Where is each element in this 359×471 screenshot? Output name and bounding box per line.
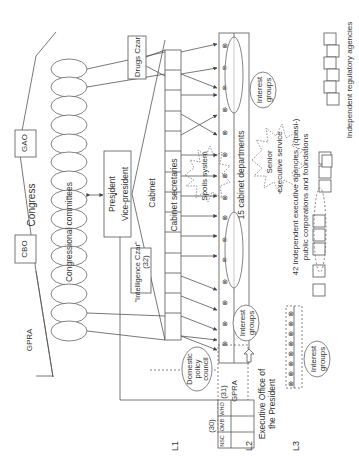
cabinet-secretaries-label: Cabinet secretaries xyxy=(169,158,179,231)
interest-groups-2: Interest groups xyxy=(233,305,259,341)
svg-text:⊗: ⊗ xyxy=(288,360,294,367)
congress-label: Congress xyxy=(26,184,37,227)
interest-groups-1: Interest groups xyxy=(250,72,276,108)
svg-text:"Intelligence Czar": "Intelligence Czar" xyxy=(133,241,142,303)
level-l1: L1 xyxy=(170,441,180,451)
svg-text:NSC: NSC xyxy=(219,435,225,447)
independent-executive-agencies-boxes xyxy=(313,152,331,296)
intelligence-czar-box: "Intelligence Czar" (32) xyxy=(131,241,151,303)
interest-groups-3: Interest groups xyxy=(304,341,330,377)
svg-text:CBO: CBO xyxy=(20,240,29,257)
eop-gpra: GPRA xyxy=(230,380,239,401)
svg-text:⊗: ⊗ xyxy=(288,320,294,327)
svg-text:WHO: WHO xyxy=(219,402,225,416)
committees-label: Congressional committees xyxy=(64,182,74,282)
svg-text:Interest: Interest xyxy=(238,309,247,336)
domestic-policy-council: Domestic policy council xyxy=(182,347,212,391)
gao-box: GAO xyxy=(15,130,36,157)
svg-text:⊗: ⊗ xyxy=(222,214,228,221)
svg-text:council: council xyxy=(201,357,210,381)
iron-triangle-ellipse-2 xyxy=(225,212,243,288)
svg-text:Interest: Interest xyxy=(255,76,264,103)
drugs-czar-box: Drugs Czar xyxy=(128,36,146,79)
iron-triangle-ellipse-1 xyxy=(225,37,243,113)
svg-text:⊗: ⊗ xyxy=(288,380,294,387)
svg-text:OMB: OMB xyxy=(219,418,225,431)
svg-text:the President: the President xyxy=(267,378,277,429)
secretary-dept-arrows xyxy=(181,44,217,350)
eop-count-30: (30) xyxy=(207,419,216,433)
svg-text:⊗: ⊗ xyxy=(222,151,228,158)
independent-executive-agencies-label: 42 independent executive agencies, (quas… xyxy=(291,118,300,275)
svg-text:public corporations and founda: public corporations and foundations xyxy=(301,134,310,260)
svg-text:Spoils system: Spoils system xyxy=(200,151,209,201)
svg-text:⊗: ⊗ xyxy=(222,106,228,113)
svg-text:Senior: Senior xyxy=(265,150,274,173)
svg-text:⊗: ⊗ xyxy=(288,330,294,337)
svg-text:⊗: ⊗ xyxy=(288,340,294,347)
svg-text:groups: groups xyxy=(318,347,327,371)
svg-text:⊗: ⊗ xyxy=(288,370,294,377)
independent-regulatory-agencies-boxes xyxy=(322,33,339,167)
svg-text:⊗: ⊗ xyxy=(288,310,294,317)
l3-agency-column: ⊗ ⊗ ⊗ ⊗ ⊗ ⊗ ⊗ ⊗ xyxy=(286,306,302,388)
svg-text:⊗: ⊗ xyxy=(222,194,228,201)
congress-triangle xyxy=(18,32,56,377)
svg-text:groups: groups xyxy=(264,78,273,102)
level-l2: L2 xyxy=(244,441,254,451)
svg-text:⊗: ⊗ xyxy=(222,129,228,136)
svg-text:(32): (32) xyxy=(141,255,150,269)
svg-text:Vice-president: Vice-president xyxy=(120,166,130,221)
svg-text:Interest: Interest xyxy=(309,345,318,372)
svg-text:•: • xyxy=(111,192,120,195)
eop-units: NSC OMB WHO xyxy=(218,400,254,448)
svg-text:⊗: ⊗ xyxy=(222,278,228,285)
svg-text:⊗: ⊗ xyxy=(222,340,228,347)
eop-label: Executive Office of xyxy=(257,368,267,439)
svg-text:⊗: ⊗ xyxy=(222,42,228,49)
president-box: President • Vice-president xyxy=(104,151,131,237)
svg-text:⊗: ⊗ xyxy=(222,172,228,179)
svg-text:GAO: GAO xyxy=(20,134,29,152)
svg-text:executive service: executive service xyxy=(275,131,284,193)
eop-count-31: (31) xyxy=(219,385,228,399)
svg-text:Drugs Czar: Drugs Czar xyxy=(133,36,142,77)
independent-regulatory-agencies-label: Independent regulatory agencies xyxy=(345,22,354,139)
cabinet-departments-label: 15 cabinet departments xyxy=(236,131,246,220)
government-structure-diagram: Congress CBO GAO GPRA Congressional comm… xyxy=(0,0,359,471)
svg-text:⊗: ⊗ xyxy=(222,299,228,306)
svg-text:⊗: ⊗ xyxy=(288,350,294,357)
level-l3: L3 xyxy=(291,441,301,451)
svg-text:⊗: ⊗ xyxy=(222,320,228,327)
cabinet-label: Cabinet xyxy=(147,178,157,208)
cbo-box: CBO xyxy=(15,235,36,263)
svg-text:groups: groups xyxy=(247,311,256,335)
gpra-label: GPRA xyxy=(25,328,34,351)
